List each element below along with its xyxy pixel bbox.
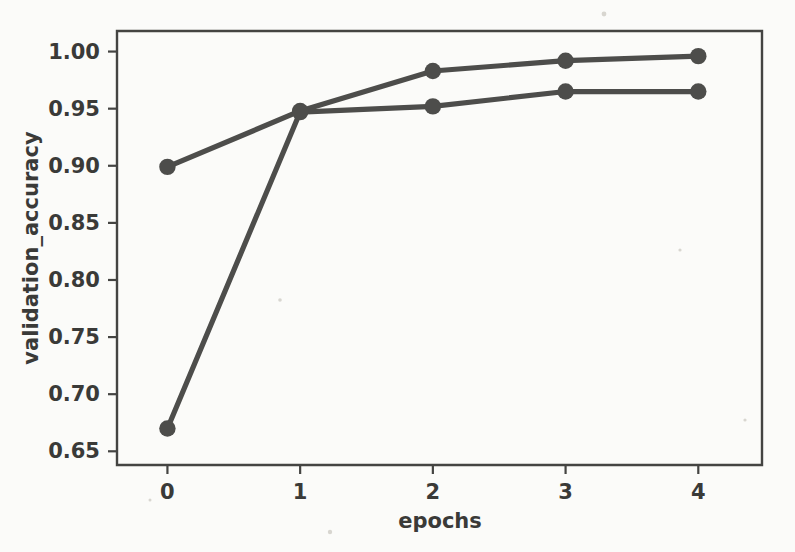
x-axis-title: epochs: [398, 509, 482, 533]
data-point-marker: [159, 420, 175, 436]
y-tick-label: 0.80: [48, 268, 100, 292]
data-point-marker: [690, 83, 706, 99]
data-point-marker: [690, 48, 706, 64]
data-point-marker: [292, 104, 308, 120]
data-point-marker: [159, 159, 175, 175]
y-tick-label: 0.90: [48, 154, 100, 178]
y-tick-label: 1.00: [48, 40, 100, 64]
x-tick-label: 1: [293, 480, 308, 504]
y-tick-label: 0.95: [48, 97, 100, 121]
data-point-marker: [557, 52, 573, 68]
x-tick-label: 2: [426, 480, 441, 504]
y-axis-title: validation_accuracy: [19, 131, 43, 365]
y-tick-label: 0.70: [48, 382, 100, 406]
x-tick-label: 4: [691, 480, 706, 504]
y-tick-label: 0.65: [48, 439, 100, 463]
line-chart: 0.650.700.750.800.850.900.951.00 01234 e…: [0, 0, 795, 552]
x-tick-label: 0: [160, 480, 175, 504]
x-tick-label: 3: [558, 480, 573, 504]
figure-canvas: 0.650.700.750.800.850.900.951.00 01234 e…: [0, 0, 795, 552]
data-point-marker: [425, 63, 441, 79]
data-point-marker: [425, 98, 441, 114]
data-point-marker: [557, 83, 573, 99]
y-tick-label: 0.75: [48, 325, 100, 349]
y-tick-label: 0.85: [48, 211, 100, 235]
